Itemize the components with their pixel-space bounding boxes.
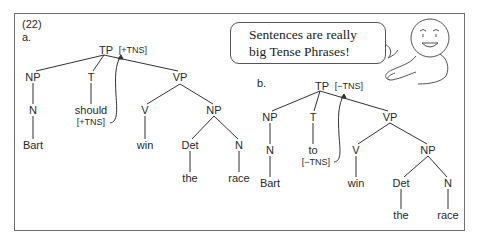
- tree-b-object-word: race: [437, 210, 458, 221]
- tree-a-t-word: should: [75, 105, 107, 116]
- tree-b-det-word: the: [393, 210, 408, 221]
- tree-a-t-node: T: [88, 72, 95, 83]
- tree-a-object-word: race: [228, 173, 249, 184]
- tree-a-t-feature: [+TNS]: [77, 118, 105, 127]
- tree-a-tp-node: TP: [99, 45, 113, 56]
- tree-b-np-object-node: NP: [420, 145, 435, 156]
- tree-b-tp-feature: [−TNS]: [335, 82, 363, 91]
- tree-a-np-subject-node: NP: [25, 72, 40, 83]
- tree-b-t-word: to: [308, 145, 317, 156]
- tree-a-tp-feature: [+TNS]: [119, 46, 147, 55]
- speech-line-1: Sentences are really: [249, 26, 379, 43]
- tree-a-subject-word: Bart: [23, 140, 43, 151]
- tree-a-n-object-node: N: [235, 140, 243, 151]
- tree-a-np-object-node: NP: [206, 105, 221, 116]
- tree-b-np-subject-node: NP: [262, 112, 277, 123]
- speech-line-2: big Tense Phrases!: [249, 43, 379, 60]
- tree-a-n-subject-node: N: [29, 105, 37, 116]
- tree-b-verb-word: win: [348, 178, 365, 189]
- tree-b-det-node: Det: [392, 178, 409, 189]
- tree-b-t-feature: [−TNS]: [302, 158, 330, 167]
- tree-b-n-subject-node: N: [266, 145, 274, 156]
- tree-b-vp-node: VP: [383, 112, 398, 123]
- tree-b-label: b.: [257, 78, 266, 89]
- tree-a-det-node: Det: [181, 140, 198, 151]
- tree-b-n-object-node: N: [444, 178, 452, 189]
- tree-b-subject-word: Bart: [260, 178, 280, 189]
- tree-b-v-node: V: [352, 145, 359, 156]
- smiley-character-icon: [408, 18, 468, 88]
- tree-b-t-node: T: [310, 112, 317, 123]
- tree-b-tp-node: TP: [315, 81, 329, 92]
- tree-a-vp-node: VP: [173, 72, 188, 83]
- example-number: (22): [22, 19, 42, 30]
- tree-a-verb-word: win: [137, 140, 154, 151]
- speech-bubble-text: Sentences are really big Tense Phrases!: [249, 26, 379, 60]
- tree-a-det-word: the: [182, 173, 197, 184]
- tree-a-label: a.: [22, 32, 31, 43]
- tree-a-v-node: V: [141, 105, 148, 116]
